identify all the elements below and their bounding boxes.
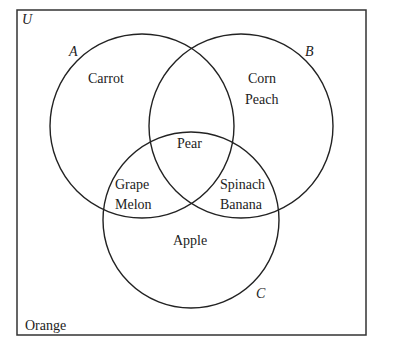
region-b-only-item: Peach — [245, 92, 278, 107]
region-b-only-item: Corn — [248, 71, 276, 86]
region-ac-item: Melon — [115, 197, 152, 212]
venn-diagram: U A B C Carrot Corn Peach Pear Grape Mel… — [0, 0, 395, 350]
region-bc-item: Banana — [220, 197, 263, 212]
region-c-only-item: Apple — [173, 233, 207, 248]
set-b-label: B — [305, 44, 314, 59]
region-bc-item: Spinach — [220, 177, 265, 192]
region-outside-item: Orange — [25, 318, 66, 333]
set-c-label: C — [256, 286, 266, 301]
region-abc-item: Pear — [177, 136, 202, 151]
universe-label: U — [22, 12, 33, 27]
region-ac-item: Grape — [115, 177, 149, 192]
set-c-circle — [103, 132, 279, 308]
set-a-label: A — [68, 44, 78, 59]
region-a-only-item: Carrot — [88, 71, 124, 86]
